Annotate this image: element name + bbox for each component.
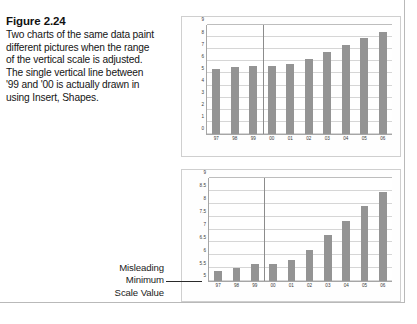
chart-bottom-inner: 98.587.576.565.5597989900010203040506 <box>182 170 400 301</box>
bar[interactable] <box>214 271 222 281</box>
y-axis-tick-label: 8 <box>203 197 206 202</box>
figure-number: Figure 2.24 <box>6 14 156 28</box>
y-axis-tick-label: 2 <box>201 103 204 108</box>
bar[interactable] <box>379 32 387 134</box>
x-axis-tick-label: 00 <box>270 284 275 289</box>
bar-slot[interactable]: 00 <box>263 25 282 134</box>
x-axis-tick-label: 97 <box>216 284 221 289</box>
x-axis-tick-label: 97 <box>214 137 219 142</box>
bar-slot[interactable]: 06 <box>374 25 393 134</box>
bar-series: 97989900010203040506 <box>207 25 392 134</box>
x-axis-tick-label: 03 <box>325 137 330 142</box>
y-axis-tick-label: 8.5 <box>200 184 206 189</box>
bar-slot[interactable]: 03 <box>319 178 337 281</box>
chart-bottom[interactable]: 98.587.576.565.5597989900010203040506 <box>181 169 401 302</box>
x-axis-tick-label: 99 <box>252 284 257 289</box>
bar[interactable] <box>212 69 220 134</box>
bar[interactable] <box>342 45 350 134</box>
x-axis-tick-label: 02 <box>306 137 311 142</box>
chart-bottom-plot-area: 98.587.576.565.5597989900010203040506 <box>208 178 392 282</box>
chart-top-plot-area: 987654321097989900010203040506 <box>206 25 392 135</box>
y-axis-tick-label: 9 <box>203 171 206 176</box>
y-axis-tick-label: 7.5 <box>200 210 206 215</box>
callout-line-2: Minimum <box>88 274 164 286</box>
bar-slot[interactable]: 02 <box>300 178 318 281</box>
y-axis-tick-label: 1 <box>201 115 204 120</box>
bar[interactable] <box>342 221 350 282</box>
bar[interactable] <box>231 67 239 134</box>
bar-slot[interactable]: 01 <box>282 178 300 281</box>
bar[interactable] <box>249 66 257 134</box>
bar[interactable] <box>323 52 331 134</box>
bar[interactable] <box>268 66 276 134</box>
bar-slot[interactable]: 01 <box>281 25 300 134</box>
x-axis-tick-label: 06 <box>380 284 385 289</box>
y-axis-tick-label: 3 <box>201 91 204 96</box>
bar[interactable] <box>306 250 314 281</box>
bar-slot[interactable]: 03 <box>318 25 337 134</box>
bar[interactable] <box>288 260 296 281</box>
bar-slot[interactable]: 04 <box>337 25 356 134</box>
x-axis-tick-label: 01 <box>289 284 294 289</box>
y-axis-tick-label: 7 <box>203 223 206 228</box>
callout-line-3: Scale Value <box>88 287 164 299</box>
x-axis-tick-label: 98 <box>234 284 239 289</box>
x-axis-tick-label: 04 <box>344 284 349 289</box>
callout-leader-line <box>166 281 202 282</box>
callout-line-1: Misleading <box>88 262 164 274</box>
y-axis-tick-label: 5 <box>201 67 204 72</box>
chart-top[interactable]: 987654321097989900010203040506 <box>181 16 401 157</box>
bar[interactable] <box>360 38 368 134</box>
x-axis-tick-label: 98 <box>232 137 237 142</box>
bar-slot[interactable]: 05 <box>355 178 373 281</box>
bar[interactable] <box>233 268 241 281</box>
y-axis-tick-label: 5 <box>203 274 206 279</box>
bar-slot[interactable]: 98 <box>226 25 245 134</box>
bar[interactable] <box>269 264 277 281</box>
x-axis-tick-label: 02 <box>307 284 312 289</box>
bar[interactable] <box>305 59 313 134</box>
bar-slot[interactable]: 99 <box>244 25 263 134</box>
bar-slot[interactable]: 04 <box>337 178 355 281</box>
inserted-vertical-line-shape[interactable] <box>264 178 265 281</box>
bar[interactable] <box>251 264 259 281</box>
bar-slot[interactable]: 97 <box>207 25 226 134</box>
x-axis-tick-label: 03 <box>325 284 330 289</box>
bar-slot[interactable]: 05 <box>355 25 374 134</box>
y-axis-tick-label: 6.5 <box>200 235 206 240</box>
y-axis-tick-label: 8 <box>201 30 204 35</box>
bar-series: 97989900010203040506 <box>209 178 392 281</box>
y-axis-tick-label: 7 <box>201 42 204 47</box>
x-axis-tick-label: 04 <box>343 137 348 142</box>
y-axis-tick-label: 9 <box>201 18 204 23</box>
bar-slot[interactable]: 99 <box>246 178 264 281</box>
x-axis-tick-label: 99 <box>251 137 256 142</box>
y-axis-tick-label: 5.5 <box>200 261 206 266</box>
x-axis-tick-label: 05 <box>362 137 367 142</box>
y-axis-tick-label: 6 <box>203 248 206 253</box>
bar-slot[interactable]: 97 <box>209 178 227 281</box>
bar-slot[interactable]: 98 <box>227 178 245 281</box>
x-axis-tick-label: 01 <box>288 137 293 142</box>
figure-caption: Figure 2.24 Two charts of the same data … <box>6 14 156 105</box>
y-axis-tick-label: 6 <box>201 54 204 59</box>
x-axis-tick-label: 05 <box>362 284 367 289</box>
bar-slot[interactable]: 06 <box>374 178 392 281</box>
inserted-vertical-line-shape[interactable] <box>263 25 264 134</box>
x-axis-tick-label: 00 <box>269 137 274 142</box>
bar[interactable] <box>324 235 332 281</box>
y-axis-tick-label: 4 <box>201 79 204 84</box>
chart-top-inner: 987654321097989900010203040506 <box>182 17 400 156</box>
bar-slot[interactable]: 02 <box>300 25 319 134</box>
misleading-scale-callout: Misleading Minimum Scale Value <box>88 262 164 299</box>
figure-caption-text: Two charts of the same data paint differ… <box>6 29 156 105</box>
bar[interactable] <box>361 206 369 281</box>
x-axis-tick-label: 06 <box>380 137 385 142</box>
bar-slot[interactable]: 00 <box>264 178 282 281</box>
y-axis-tick-label: 0 <box>201 127 204 132</box>
bar[interactable] <box>286 64 294 134</box>
bar[interactable] <box>379 192 387 281</box>
